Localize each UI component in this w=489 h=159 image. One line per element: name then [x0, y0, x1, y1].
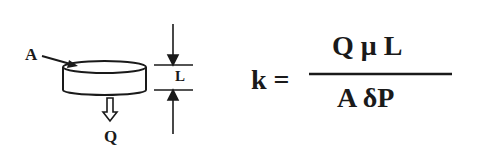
- equation-numerator: Q μ L: [332, 32, 402, 60]
- equation-denominator: A δP: [337, 84, 394, 112]
- permeability-diagram: [0, 0, 489, 159]
- length-dimension: [154, 24, 193, 134]
- flow-arrow-icon: [103, 98, 117, 121]
- equation-lhs: k =: [251, 66, 290, 94]
- flow-label: Q: [104, 128, 117, 145]
- length-label: L: [175, 69, 185, 84]
- area-pointer-arrow: [42, 56, 78, 68]
- area-label: A: [25, 46, 37, 63]
